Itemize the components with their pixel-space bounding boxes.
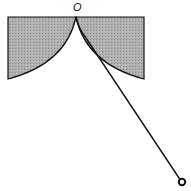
- origin-label: O: [73, 1, 82, 13]
- pendulum-bob: [179, 179, 185, 185]
- pendulum-diagram: O: [0, 0, 191, 191]
- left-cycloid-cheek: [8, 17, 76, 79]
- right-cycloid-cheek: [76, 17, 144, 79]
